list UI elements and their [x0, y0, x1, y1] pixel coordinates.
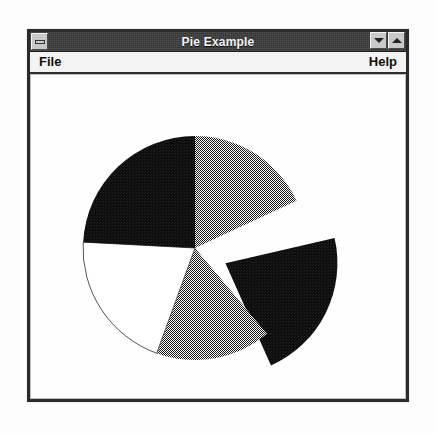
pie-chart: [31, 75, 406, 398]
menu-item-help[interactable]: Help: [366, 54, 400, 70]
title-bar[interactable]: Pie Example: [30, 32, 406, 52]
window-maximize-button[interactable]: [388, 32, 405, 49]
window-minimize-button[interactable]: [31, 33, 48, 50]
pie-slice: [195, 136, 297, 248]
window-restore-down-button[interactable]: [370, 32, 387, 49]
triangle-up-icon: [392, 38, 402, 43]
application-window: Pie Example File Help: [27, 29, 409, 402]
client-area: [30, 74, 406, 399]
minimize-bar-icon: [35, 40, 45, 44]
triangle-down-icon: [374, 38, 384, 43]
window-controls-group: [370, 32, 405, 49]
menu-item-file[interactable]: File: [36, 54, 64, 70]
pie-slice: [83, 136, 195, 248]
pie-slices-group: [83, 136, 337, 365]
menu-bar: File Help: [30, 52, 406, 74]
window-title: Pie Example: [30, 35, 406, 49]
